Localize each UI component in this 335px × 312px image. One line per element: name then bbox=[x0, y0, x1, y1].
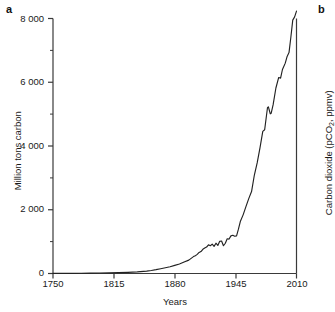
y-axis-major-ticks bbox=[48, 19, 53, 274]
data-line-carbon-emissions bbox=[53, 11, 297, 273]
x-axis-major-ticks bbox=[53, 274, 297, 279]
figure-panel-a: a b Million tons carbon Years Carbon dio… bbox=[0, 0, 335, 312]
plot-area bbox=[0, 0, 335, 312]
